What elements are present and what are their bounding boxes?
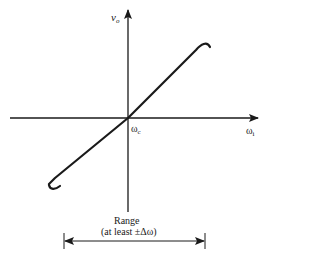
y-axis-label-sub: o [116,17,120,25]
y-axis-label: vo [111,12,119,25]
x-axis-label-sub: i [253,130,255,138]
range-subtitle: (at least ±Δω) [101,227,157,237]
transfer-curve [49,44,210,189]
range-title: Range [114,216,140,226]
x-axis-label-main: ω [246,125,253,136]
origin-label-main: ω [131,123,138,134]
origin-label: ωc [131,124,141,136]
x-axis-label: ωi [246,126,255,138]
origin-label-sub: c [138,128,141,136]
